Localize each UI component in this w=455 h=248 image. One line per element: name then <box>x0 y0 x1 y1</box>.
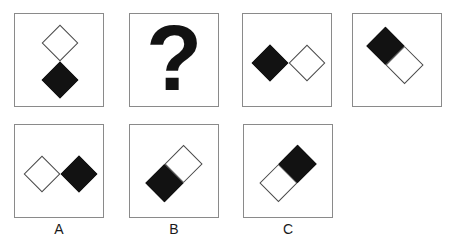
answer-option-c[interactable] <box>243 124 333 218</box>
diamond-pair <box>15 125 103 217</box>
black-diamond <box>61 156 98 193</box>
white-diamond <box>24 156 61 193</box>
black-diamond <box>252 45 289 82</box>
question-mark-wrap: ? <box>130 14 218 106</box>
question-mark: ? <box>146 12 202 104</box>
puzzle-cell-2 <box>242 13 332 107</box>
white-diamond <box>42 25 79 62</box>
split-domino <box>259 145 316 202</box>
white-diamond <box>289 45 326 82</box>
puzzle-board: ? A B C <box>0 0 455 248</box>
puzzle-cell-1 <box>14 13 104 107</box>
answer-label-a: A <box>14 221 104 237</box>
answer-option-b[interactable] <box>129 124 219 218</box>
split-domino <box>366 27 423 84</box>
black-diamond <box>42 62 79 99</box>
answer-label-b: B <box>129 221 219 237</box>
puzzle-cell-question: ? <box>129 13 219 107</box>
diamond-pair <box>15 14 103 106</box>
answer-label-c: C <box>243 221 333 237</box>
answer-option-a[interactable] <box>14 124 104 218</box>
puzzle-cell-3 <box>352 13 442 107</box>
split-domino <box>145 145 202 202</box>
diamond-pair <box>243 14 331 106</box>
